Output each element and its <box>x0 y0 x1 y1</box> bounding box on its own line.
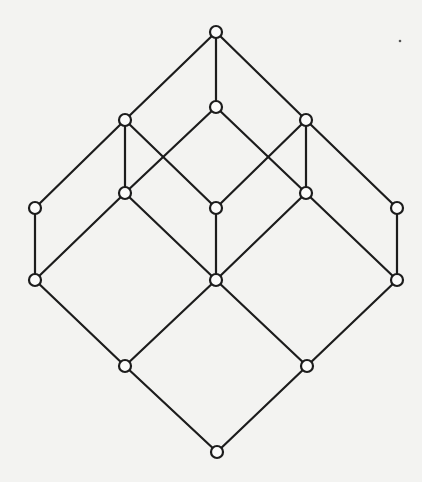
edge-mm-d1 <box>125 280 216 366</box>
edge-m-b2 <box>216 107 306 193</box>
node-c <box>300 114 312 126</box>
node-m <box>210 101 222 113</box>
node-ll <box>29 274 41 286</box>
edge-top-a <box>125 32 216 120</box>
edge-a-cc <box>125 120 216 208</box>
node-mm <box>210 274 222 286</box>
edge-d2-bot <box>217 366 307 452</box>
edge-b1-mm <box>125 193 216 280</box>
hasse-diagram <box>0 0 422 482</box>
node-r <box>391 202 403 214</box>
node-b2 <box>300 187 312 199</box>
node-l <box>29 202 41 214</box>
node-bot <box>211 446 223 458</box>
edge-mm-d2 <box>216 280 307 366</box>
edge-b1-ll <box>35 193 125 280</box>
node-d1 <box>119 360 131 372</box>
edge-rr-d2 <box>307 280 397 366</box>
edge-a-l <box>35 120 125 208</box>
node-b1 <box>119 187 131 199</box>
edge-c-cc <box>216 120 306 208</box>
edge-m-b1 <box>125 107 216 193</box>
edge-b2-rr <box>306 193 397 280</box>
edge-c-r <box>306 120 397 208</box>
node-top <box>210 26 222 38</box>
scan-speck <box>399 40 402 43</box>
node-rr <box>391 274 403 286</box>
node-a <box>119 114 131 126</box>
node-cc <box>210 202 222 214</box>
edge-d1-bot <box>125 366 217 452</box>
node-d2 <box>301 360 313 372</box>
edge-top-c <box>216 32 306 120</box>
edge-ll-d1 <box>35 280 125 366</box>
edge-layer <box>35 32 397 452</box>
edge-b2-mm <box>216 193 306 280</box>
